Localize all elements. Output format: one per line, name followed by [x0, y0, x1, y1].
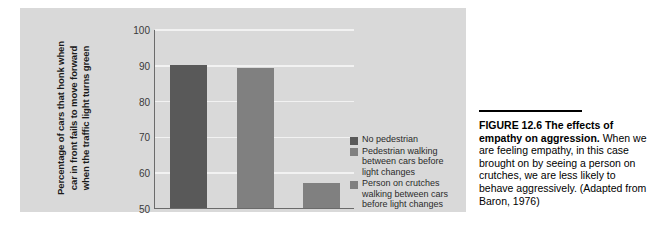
caption-title: FIGURE 12.6 The effects of empathy on ag…: [479, 119, 613, 144]
legend-item-3: Person on crutcheswalking between carsbe…: [350, 178, 480, 210]
legend-label-1-line-1: No pedestrian: [362, 134, 418, 145]
y-tick-label-90: 90: [139, 60, 150, 71]
legend-label-2-line-1: Pedestrian walking: [362, 146, 444, 157]
legend-swatch-1: [350, 137, 358, 145]
figure-panel: Percentage of cars that honk when car in…: [20, 8, 466, 212]
gridline-100: [155, 29, 354, 31]
legend-label-3-line-2: walking between cars: [362, 189, 448, 200]
legend-label-1: No pedestrian: [362, 134, 418, 145]
y-tick-label-70: 70: [139, 132, 150, 143]
y-axis-title-line-2: car in front fails to move forward: [68, 20, 81, 216]
legend-swatch-3: [350, 181, 358, 189]
legend-label-3: Person on crutcheswalking between carsbe…: [362, 178, 448, 210]
y-axis-title-line-3: when the traffic light turns green: [80, 20, 93, 216]
caption-rule-divider: [479, 110, 582, 112]
plot-wrap: 5060708090100: [128, 22, 362, 218]
y-tick-label-80: 80: [139, 96, 150, 107]
legend-label-3-line-3: before light changes: [362, 199, 448, 210]
legend-label-2-line-2: between cars before: [362, 156, 444, 167]
bar-chart-plot-area: 5060708090100: [154, 30, 354, 209]
bar-3: [303, 183, 340, 208]
caption-text: FIGURE 12.6 The effects of empathy on ag…: [479, 119, 651, 207]
y-axis-title: Percentage of cars that honk when car in…: [48, 20, 100, 216]
y-tick-label-100: 100: [133, 25, 150, 36]
legend-label-3-line-1: Person on crutches: [362, 178, 448, 189]
legend-item-2: Pedestrian walkingbetween cars beforelig…: [350, 146, 480, 178]
legend-swatch-2: [350, 148, 358, 156]
y-tick-label-50: 50: [139, 204, 150, 215]
chart-legend: No pedestrianPedestrian walkingbetween c…: [350, 134, 480, 211]
bar-1: [170, 65, 207, 208]
y-axis-title-line-1: Percentage of cars that honk when: [55, 20, 68, 216]
bar-2: [237, 68, 274, 208]
y-tick-label-60: 60: [139, 168, 150, 179]
legend-item-1: No pedestrian: [350, 134, 480, 145]
legend-label-2-line-3: light changes: [362, 167, 444, 178]
legend-label-2: Pedestrian walkingbetween cars beforelig…: [362, 146, 444, 178]
figure-caption: FIGURE 12.6 The effects of empathy on ag…: [479, 110, 651, 207]
